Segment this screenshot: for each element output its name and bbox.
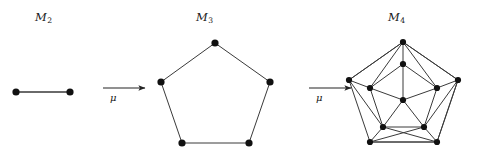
graph-edge	[403, 64, 437, 88]
graph-edge	[370, 64, 403, 88]
graph-vertex	[421, 124, 427, 130]
graph-vertex	[245, 139, 252, 146]
graph-vertex	[346, 77, 352, 83]
graph-vertex	[157, 78, 164, 85]
graph-edge	[215, 43, 270, 82]
graph-edge	[383, 127, 437, 142]
figure-root: M2 M3 M4 μ μ	[0, 0, 479, 161]
graph-edge	[403, 42, 437, 88]
arrow-label-mu-1: μ	[110, 92, 117, 103]
graph-sequence-diagram	[0, 0, 479, 161]
graph-vertex	[266, 78, 273, 85]
graph-vertex	[367, 139, 373, 145]
graph-vertex	[211, 39, 218, 46]
graph-vertex	[367, 85, 373, 91]
graph-vertex	[400, 39, 406, 45]
graph-edges-layer	[16, 42, 458, 143]
graph-edge	[161, 43, 215, 82]
graph-edge	[403, 88, 437, 100]
graph-edge	[370, 88, 403, 100]
graph-vertex	[400, 97, 406, 103]
graph-label-m4: M4	[388, 10, 405, 24]
graph-edge	[437, 80, 458, 142]
graph-edge	[370, 127, 424, 142]
graph-edge	[424, 88, 437, 127]
graph-vertex	[400, 61, 406, 67]
graph-vertex	[66, 88, 73, 95]
arrow-label-mu-2: μ	[316, 92, 323, 103]
graph-vertex	[434, 85, 440, 91]
graph-vertex	[12, 88, 19, 95]
graph-edge	[249, 82, 270, 143]
graph-edge	[349, 80, 383, 127]
graph-edge	[349, 42, 403, 80]
graph-edge	[349, 80, 370, 142]
graph-edge	[370, 88, 383, 127]
graph-vertex	[434, 139, 440, 145]
graph-vertex	[380, 124, 386, 130]
graph-vertex	[178, 139, 185, 146]
graph-edge	[424, 80, 458, 127]
graph-edge	[383, 100, 403, 127]
graph-edge	[403, 42, 458, 80]
graph-vertex	[455, 77, 461, 83]
graph-edge	[370, 42, 403, 88]
graph-edge	[403, 100, 424, 127]
graph-edge	[161, 82, 182, 143]
graph-label-m2: M2	[35, 10, 52, 24]
graph-label-m3: M3	[196, 10, 213, 24]
